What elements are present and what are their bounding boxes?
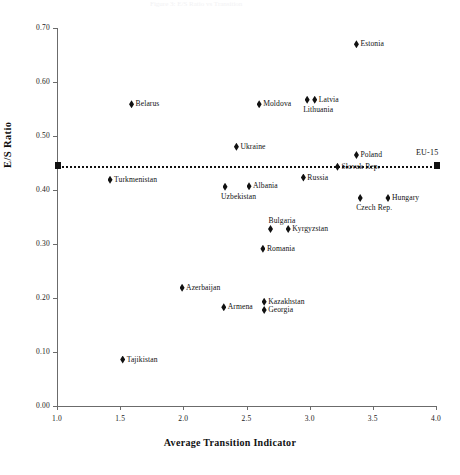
data-point-label: Kyrgyzstan [292,224,328,233]
data-point-marker[interactable] [262,298,267,306]
data-point-label: Bulgaria [269,216,296,225]
data-point-label: Czech Rep. [356,203,392,212]
data-point-marker[interactable] [335,163,340,171]
data-point-marker[interactable] [180,284,185,292]
x-tick-mark [373,406,374,410]
x-tick-mark [120,406,121,410]
data-point-marker[interactable] [129,100,134,108]
data-point-label: Armena [228,302,253,311]
y-tick-mark [53,28,57,29]
y-tick-label: 0.00 [24,401,50,410]
y-tick-label: 0.30 [24,239,50,248]
x-tick-mark [247,406,248,410]
data-point-label: Tajikistan [127,355,158,364]
x-tick-label: 2.0 [170,414,196,423]
data-point-marker[interactable] [286,225,291,233]
data-point-marker[interactable] [221,303,226,311]
y-tick-label: 0.20 [24,293,50,302]
data-point-marker[interactable] [257,100,262,108]
y-axis-title: E/S Ratio [2,122,13,168]
data-point-label: Georgia [268,305,293,314]
x-axis-title: Average Transition Indicator [0,437,460,448]
y-tick-mark [53,82,57,83]
data-point-marker[interactable] [358,194,363,202]
data-point-label: Poland [360,150,382,159]
x-tick-label: 4.0 [423,414,449,423]
y-tick-mark [53,136,57,137]
data-point-marker[interactable] [312,96,317,104]
data-point-label: Belarus [136,99,160,108]
data-point-label: Albania [253,181,278,190]
data-point-label: Romania [267,244,295,253]
eu15-label: EU-15 [416,148,438,157]
y-tick-mark [53,352,57,353]
data-point-label: Latvia [319,95,339,104]
data-point-marker[interactable] [305,96,310,104]
eu15-marker-left [55,162,61,169]
data-point-marker[interactable] [234,143,239,151]
data-point-label: Estonia [360,39,383,48]
data-point-label: Uzbekistan [221,192,256,201]
y-tick-mark [53,298,57,299]
x-tick-mark [57,406,58,410]
x-tick-label: 3.0 [297,414,323,423]
x-tick-mark [436,406,437,410]
data-point-label: Lithuania [303,105,333,114]
y-axis-line [57,28,58,406]
x-tick-label: 1.5 [107,414,133,423]
data-point-label: Turkmenistan [114,175,157,184]
data-point-marker[interactable] [223,183,228,191]
plot-area: 0.000.100.200.300.400.500.600.70 1.01.52… [57,28,436,406]
data-point-marker[interactable] [108,176,113,184]
data-point-marker[interactable] [268,225,273,233]
x-tick-label: 2.5 [234,414,260,423]
data-point-marker[interactable] [385,194,390,202]
y-tick-label: 0.40 [24,185,50,194]
data-point-marker[interactable] [354,151,359,159]
x-tick-mark [183,406,184,410]
data-point-label: Moldova [263,99,291,108]
data-point-label: Azerbaijan [186,283,220,292]
x-tick-label: 3.5 [360,414,386,423]
data-point-marker[interactable] [262,306,267,314]
y-tick-mark [53,244,57,245]
data-point-label: Ukraine [240,142,265,151]
x-tick-mark [310,406,311,410]
x-tick-label: 1.0 [44,414,70,423]
data-point-marker[interactable] [354,40,359,48]
data-point-marker[interactable] [301,174,306,182]
data-point-label: Hungary [392,193,419,202]
y-tick-label: 0.70 [24,23,50,32]
data-point-label: Slovak Rep. [341,162,379,171]
figure-canvas: Figure 3: E/S Ratio vs Transition E/S Ra… [0,0,460,475]
data-point-marker[interactable] [247,182,252,190]
data-point-marker[interactable] [260,245,265,253]
y-tick-mark [53,190,57,191]
eu15-marker-right [434,162,440,169]
data-point-label: Russia [307,173,328,182]
y-tick-label: 0.10 [24,347,50,356]
cropped-figure-title: Figure 3: E/S Ratio vs Transition [150,0,330,8]
y-tick-label: 0.60 [24,77,50,86]
data-point-marker[interactable] [120,356,125,364]
y-tick-label: 0.50 [24,131,50,140]
